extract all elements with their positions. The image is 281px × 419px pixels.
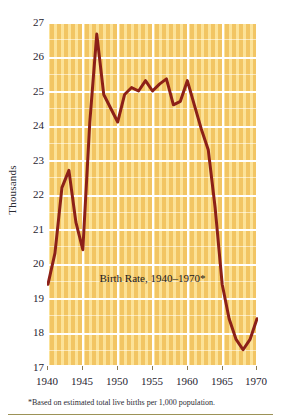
birth-rate-chart-figure: Thousands 27 26 25 24 23 22 21 20 19 18 …: [0, 0, 281, 419]
x-tick-mark-1955: [152, 366, 153, 370]
birth-rate-line-series: [47, 22, 258, 367]
plot-area: [47, 22, 258, 367]
x-tick-mark-1945: [82, 366, 83, 370]
x-tick-mark-1970: [256, 366, 257, 370]
y-tick-label-22: 22: [22, 189, 44, 199]
y-tick-label-25: 25: [22, 86, 44, 96]
chart-footnote: *Based on estimated total live births pe…: [28, 398, 268, 407]
y-tick-label-20: 20: [22, 258, 44, 268]
x-tick-label-1970: 1970: [236, 375, 276, 387]
y-tick-label-18: 18: [22, 327, 44, 337]
y-tick-label-21: 21: [22, 224, 44, 234]
x-tick-label-1955: 1955: [132, 375, 172, 387]
x-tick-label-1945: 1945: [62, 375, 102, 387]
chart-title: Birth Rate, 1940–1970*: [47, 272, 258, 284]
x-tick-mark-1965: [222, 366, 223, 370]
x-tick-label-1960: 1960: [167, 375, 207, 387]
x-tick-label-1940: 1940: [27, 375, 67, 387]
x-tick-label-1950: 1950: [97, 375, 137, 387]
y-tick-label-23: 23: [22, 155, 44, 165]
y-tick-label-19: 19: [22, 293, 44, 303]
y-axis-title: Thousands: [6, 145, 18, 235]
bottom-divider: [8, 414, 273, 415]
x-tick-mark-1940: [47, 366, 48, 370]
y-tick-label-17: 17: [22, 362, 44, 372]
y-tick-label-24: 24: [22, 120, 44, 130]
y-tick-label-26: 26: [22, 51, 44, 61]
y-tick-label-27: 27: [22, 17, 44, 27]
x-tick-mark-1950: [117, 366, 118, 370]
x-tick-mark-1960: [187, 366, 188, 370]
